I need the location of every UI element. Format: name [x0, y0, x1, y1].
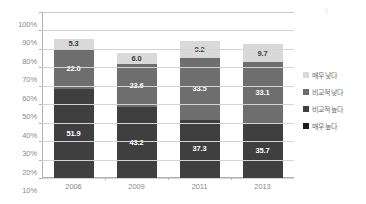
- y-tick-mark: [39, 86, 42, 87]
- bar-value-label: 51.9: [67, 130, 81, 138]
- bar-value-label: 22.0: [67, 65, 81, 73]
- plot-area: 51.922.05.343.223.66.037.333.59.235.733.…: [42, 12, 294, 178]
- gridline: [42, 141, 294, 142]
- bars-layer: 51.922.05.343.223.66.037.333.59.235.733.…: [42, 12, 294, 178]
- bar-group[interactable]: 43.223.66.0: [117, 12, 157, 178]
- y-tick-mark: [39, 160, 42, 161]
- gridline: [42, 86, 294, 87]
- y-tick-label: 20%: [22, 167, 37, 176]
- stacked-bar-chart: 10%20%30%40%50%60%70%80%90%100% 51.922.0…: [0, 0, 366, 204]
- y-tick-mark: [39, 67, 42, 68]
- y-tick-label: 80%: [22, 56, 37, 65]
- x-tick-label: 2013: [233, 182, 293, 191]
- gridline: [42, 123, 294, 124]
- bar-value-label: 37.3: [193, 145, 207, 153]
- bar-segment[interactable]: 5.3: [54, 39, 94, 49]
- scan-artifact: [325, 8, 328, 14]
- bar-value-label: 33.1: [256, 89, 270, 97]
- legend-label: 매우 낮다: [312, 70, 337, 80]
- bar-value-label: 43.2: [130, 139, 144, 147]
- legend-item[interactable]: 비교적 높다: [303, 102, 365, 116]
- y-tick-label: 30%: [22, 149, 37, 158]
- y-tick-mark: [39, 178, 42, 179]
- y-tick-mark: [39, 104, 42, 105]
- bar-group[interactable]: 37.333.59.2: [180, 12, 220, 178]
- legend-swatch-icon: [303, 89, 309, 95]
- y-tick-label: 40%: [22, 130, 37, 139]
- y-tick-mark: [39, 123, 42, 124]
- bar-segment[interactable]: 6.0: [117, 53, 157, 64]
- bar-segment[interactable]: 37.3: [180, 120, 220, 178]
- y-tick-label: 70%: [22, 75, 37, 84]
- gridline: [42, 30, 294, 31]
- legend-label: 매우 높다: [312, 121, 337, 131]
- legend-item[interactable]: 매우 높다: [303, 119, 365, 133]
- x-tick-label: 2009: [107, 182, 167, 191]
- bar-segment[interactable]: 51.9: [54, 89, 94, 178]
- bar-segment[interactable]: 35.7: [243, 123, 283, 178]
- gridline: [42, 104, 294, 105]
- bar-segment[interactable]: 22.0: [54, 49, 94, 90]
- bar-value-label: 9.7: [258, 50, 268, 58]
- x-tick-mark: [105, 177, 106, 180]
- y-tick-mark: [39, 141, 42, 142]
- bar-segment[interactable]: 9.7: [243, 44, 283, 62]
- legend-label: 비교적 낮다: [312, 87, 343, 97]
- bar-value-label: 5.3: [69, 40, 79, 48]
- legend-swatch-icon: [303, 72, 309, 78]
- legend-swatch-icon: [303, 106, 309, 112]
- x-tick-label: 2006: [44, 182, 104, 191]
- x-tick-mark: [168, 177, 169, 180]
- legend-swatch-icon: [303, 123, 309, 129]
- y-tick-label: 90%: [22, 38, 37, 47]
- y-tick-label: 60%: [22, 93, 37, 102]
- gridline: [42, 12, 294, 13]
- x-tick-label: 2011: [170, 182, 230, 191]
- gridline: [42, 49, 294, 50]
- bar-segment[interactable]: 33.1: [243, 62, 283, 123]
- legend-item[interactable]: 매우 낮다: [303, 68, 365, 82]
- y-tick-mark: [39, 49, 42, 50]
- y-tick-mark: [39, 12, 42, 13]
- y-tick-label: 10%: [22, 186, 37, 195]
- y-axis: 10%20%30%40%50%60%70%80%90%100%: [0, 12, 40, 178]
- x-tick-mark: [231, 177, 232, 180]
- gridline: [42, 67, 294, 68]
- x-axis: 2006200920112013: [42, 180, 294, 198]
- legend-label: 비교적 높다: [312, 104, 343, 114]
- bar-value-label: 6.0: [132, 55, 142, 63]
- chart-legend: 매우 낮다비교적 낮다비교적 높다매우 높다: [303, 68, 365, 136]
- gridline: [42, 160, 294, 161]
- y-tick-label: 100%: [18, 20, 37, 29]
- y-tick-mark: [39, 30, 42, 31]
- bar-group[interactable]: 51.922.05.3: [54, 12, 94, 178]
- bar-value-label: 35.7: [256, 147, 270, 155]
- bar-group[interactable]: 35.733.19.7: [243, 12, 283, 178]
- bar-segment[interactable]: 43.2: [117, 107, 157, 178]
- legend-item[interactable]: 비교적 낮다: [303, 85, 365, 99]
- y-tick-label: 50%: [22, 112, 37, 121]
